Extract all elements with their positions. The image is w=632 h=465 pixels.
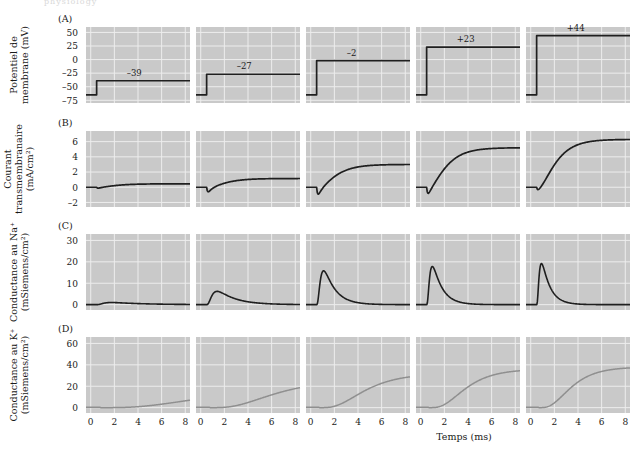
x-tick-label: 4 — [245, 417, 251, 427]
panel-letter: (D) — [58, 323, 73, 334]
x-tick-label: 6 — [159, 417, 165, 427]
step-value-label: –27 — [237, 61, 252, 71]
y-tick-label: 40 — [67, 360, 79, 370]
panel-row-B: (B)6420–2Couranttransmembranaire(mA/cm²) — [2, 117, 630, 214]
step-value-label: –2 — [347, 48, 357, 58]
plot-cell: +23 — [416, 27, 520, 103]
x-tick-label: 4 — [465, 417, 471, 427]
y-tick-label: 10 — [67, 279, 79, 289]
step-value-label: +44 — [567, 23, 585, 33]
x-tick-label: 4 — [575, 417, 581, 427]
y-tick-label: 2 — [72, 167, 78, 177]
plot-cell: 02468 — [86, 337, 190, 427]
y-axis-title-line: membrane (mV) — [19, 26, 30, 104]
x-tick-label: 2 — [441, 417, 447, 427]
x-tick-label: 8 — [622, 417, 628, 427]
x-tick-label: 8 — [402, 417, 408, 427]
x-tick-label: 6 — [379, 417, 385, 427]
x-tick-label: 0 — [418, 417, 424, 427]
y-axis-title-line: (mA/cm²) — [24, 147, 35, 192]
y-axis-title: Conductance au K⁺(mSiemens/cm²) — [8, 328, 30, 421]
y-axis-title-line: (mSiemens/cm²) — [19, 233, 30, 312]
panel-row-A: (A)50250–25–50–75Potentiel demembrane (m… — [8, 13, 631, 106]
panel-row-C: (C)3020100Conductance au Na⁺(mSiemens/cm… — [8, 220, 631, 322]
y-tick-label: 20 — [67, 257, 79, 267]
plot-cell — [526, 234, 630, 310]
plot-cell — [86, 131, 190, 207]
plot-cell — [196, 234, 300, 310]
y-tick-label: 60 — [67, 339, 79, 349]
y-tick-label: 0 — [72, 183, 78, 193]
step-value-label: –39 — [127, 68, 142, 78]
y-axis-title-line: (mSiemens/cm²) — [19, 336, 30, 415]
x-tick-label: 4 — [135, 417, 141, 427]
x-tick-label: 2 — [551, 417, 557, 427]
x-tick-label: 2 — [221, 417, 227, 427]
plot-cell: –2 — [306, 27, 410, 103]
plot-cell: 02468 — [306, 337, 410, 427]
plot-cell — [416, 131, 520, 207]
x-axis-title: Temps (ms) — [436, 431, 492, 442]
panel-letter: (A) — [58, 13, 72, 24]
plot-cell — [306, 131, 410, 207]
x-tick-label: 8 — [182, 417, 188, 427]
panel-letter: (B) — [58, 117, 72, 128]
plot-cell: +44 — [526, 23, 630, 103]
plot-cell: 02468 — [416, 337, 520, 427]
x-tick-label: 6 — [489, 417, 495, 427]
y-axis-title: Conductance au Na⁺(mSiemens/cm²) — [8, 222, 30, 322]
y-tick-label: 20 — [67, 382, 79, 392]
y-axis-title: Couranttransmembranaire(mA/cm²) — [2, 124, 35, 214]
plot-cell — [86, 234, 190, 310]
y-tick-label: –75 — [62, 96, 78, 106]
hodgkin-huxley-figure: (A)50250–25–50–75Potentiel demembrane (m… — [0, 0, 632, 465]
y-tick-label: 0 — [72, 300, 78, 310]
y-tick-label: –50 — [62, 82, 78, 92]
plot-cell — [196, 131, 300, 207]
x-tick-label: 2 — [111, 417, 117, 427]
y-axis-title-line: Conductance au Na⁺ — [8, 222, 19, 322]
panel-row-D: (D)6040200Conductance au K⁺(mSiemens/cm²… — [8, 323, 631, 427]
y-axis-title-line: transmembranaire — [13, 124, 24, 214]
y-tick-label: 0 — [72, 403, 78, 413]
x-tick-label: 0 — [198, 417, 204, 427]
y-axis-title-line: Courant — [2, 149, 13, 188]
y-tick-label: 6 — [72, 137, 78, 147]
y-axis-title-line: Potentiel de — [8, 36, 19, 94]
panel-letter: (C) — [58, 220, 73, 231]
y-tick-label: 50 — [67, 28, 79, 38]
plot-cell: –39 — [86, 27, 190, 103]
plot-cell — [416, 234, 520, 310]
x-tick-label: 0 — [528, 417, 534, 427]
x-tick-label: 0 — [88, 417, 94, 427]
y-tick-label: –25 — [62, 68, 78, 78]
step-value-label: +23 — [457, 34, 475, 44]
y-tick-label: 30 — [67, 236, 79, 246]
plot-cell: –27 — [196, 27, 300, 103]
plot-cell — [526, 131, 630, 207]
plot-cell: 02468 — [526, 337, 630, 427]
x-tick-label: 8 — [512, 417, 518, 427]
x-tick-label: 6 — [269, 417, 275, 427]
y-tick-label: 0 — [72, 55, 78, 65]
y-axis-title: Potentiel demembrane (mV) — [8, 26, 30, 104]
x-tick-label: 4 — [355, 417, 361, 427]
y-tick-label: 4 — [72, 152, 78, 162]
x-tick-label: 6 — [599, 417, 605, 427]
x-tick-label: 0 — [308, 417, 314, 427]
y-tick-label: –2 — [68, 198, 78, 208]
x-tick-label: 8 — [292, 417, 298, 427]
y-tick-label: 25 — [67, 41, 79, 51]
plot-cell — [306, 234, 410, 310]
plot-cell: 02468 — [196, 337, 300, 427]
x-tick-label: 2 — [331, 417, 337, 427]
y-axis-title-line: Conductance au K⁺ — [8, 328, 19, 421]
